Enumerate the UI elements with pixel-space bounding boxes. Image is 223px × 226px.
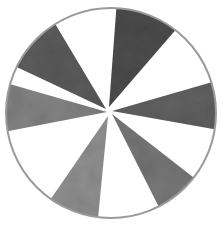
wheel-artwork bbox=[0, 0, 223, 226]
